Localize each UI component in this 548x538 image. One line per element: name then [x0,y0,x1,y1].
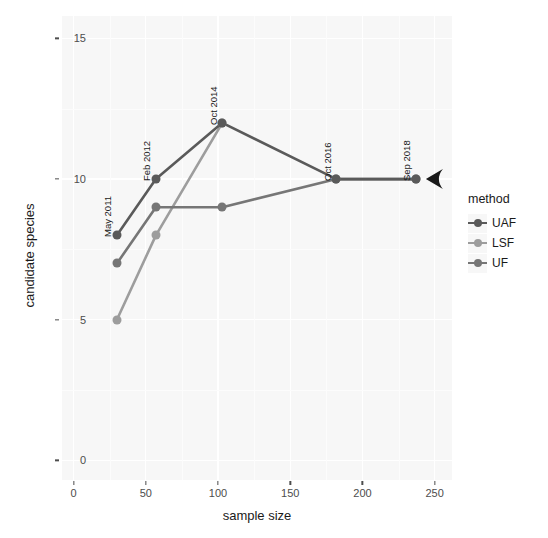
legend-item-uf[interactable]: UF [468,253,516,273]
y-axis-title: candidate species [22,141,37,371]
arrow-marker-layer [62,16,452,480]
legend-item-label: UAF [492,216,516,230]
x-tick-mark [73,481,74,485]
legend-item-uaf[interactable]: UAF [468,213,516,233]
x-tick-label: 200 [353,487,371,499]
y-tick-mark [55,38,59,39]
legend-item-lsf[interactable]: LSF [468,233,516,253]
legend-key-dot [474,219,482,227]
arrow-marker-icon [426,169,443,189]
legend-item-label: LSF [492,236,514,250]
y-tick-label: 10 [74,173,86,185]
x-axis-title: sample size [62,508,452,523]
y-tick-mark [55,178,59,179]
x-tick-label: 100 [209,487,227,499]
legend-key-swatch [468,254,487,273]
legend: method UAFLSFUF [468,192,516,273]
x-tick-label: 250 [425,487,443,499]
x-tick-mark [217,481,218,485]
y-tick-label: 15 [74,32,86,44]
y-tick-mark [55,319,59,320]
legend-key-swatch [468,214,487,233]
legend-title: method [468,192,516,206]
plot-panel: May 2011Feb 2012Oct 2014Oct 2016Sep 2018 [62,16,452,480]
y-tick-label: 0 [80,454,86,466]
legend-item-label: UF [492,256,508,270]
legend-items: UAFLSFUF [468,213,516,273]
chart-root: May 2011Feb 2012Oct 2014Oct 2016Sep 2018… [0,0,548,538]
x-tick-label: 50 [140,487,152,499]
x-tick-label: 150 [281,487,299,499]
legend-key-swatch [468,234,487,253]
x-tick-mark [290,481,291,485]
legend-key-dot [474,239,482,247]
y-tick-label: 5 [80,314,86,326]
legend-key-dot [474,259,482,267]
x-tick-label: 0 [70,487,76,499]
x-tick-mark [145,481,146,485]
y-tick-mark [55,460,59,461]
x-tick-mark [434,481,435,485]
x-tick-mark [362,481,363,485]
